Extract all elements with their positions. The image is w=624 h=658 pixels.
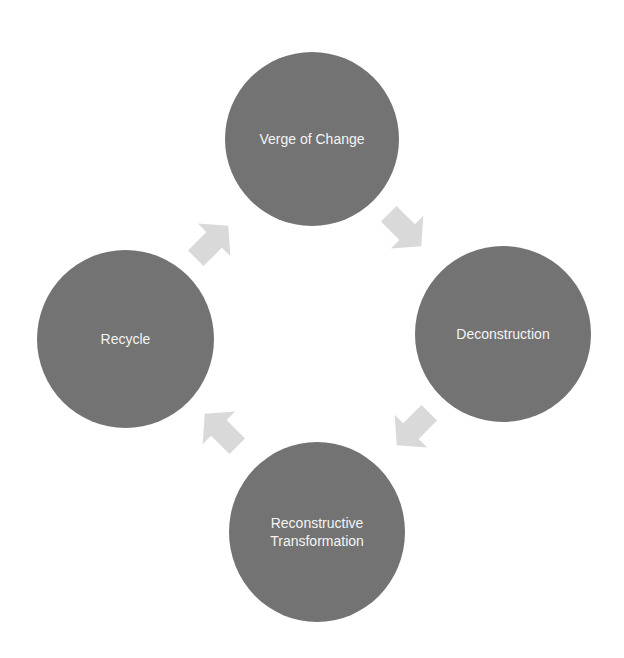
arrow-up-left-icon [183,392,259,468]
arrow-down-left-icon [375,391,451,467]
node-verge-of-change: Verge of Change [225,52,399,226]
block-arrow-icon [375,391,451,467]
block-arrow-icon [174,204,250,280]
arrow-down-right-icon [367,192,443,268]
node-recycle: Recycle [37,250,214,428]
block-arrow-icon [367,192,443,268]
node-reconstructive-transformation: Reconstructive Transformation [229,442,405,622]
cycle-diagram: Verge of Change Deconstruction Reconstru… [0,0,624,658]
node-label: Deconstruction [456,325,549,343]
node-deconstruction: Deconstruction [415,246,591,422]
node-label: Verge of Change [259,130,364,148]
node-label: Reconstructive Transformation [270,514,364,550]
node-label: Recycle [101,330,151,348]
arrow-up-right-icon [174,204,250,280]
block-arrow-icon [183,392,259,468]
